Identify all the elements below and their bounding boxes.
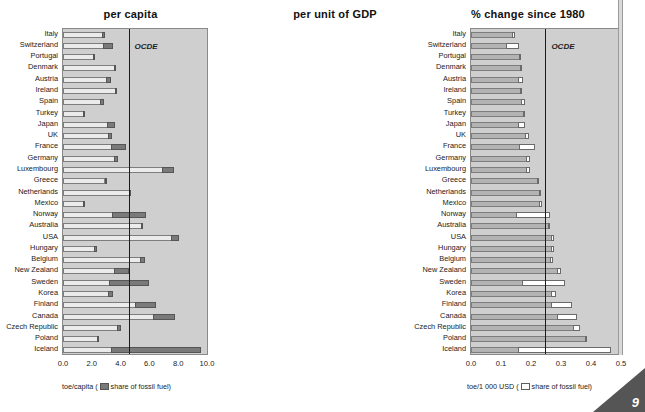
- ocde-label-1: OCDE: [135, 42, 158, 51]
- bar-fossil-share: [106, 77, 110, 83]
- country-label: Portugal: [30, 52, 58, 60]
- country-labels-per-capita: ItalySwitzerlandPortugalDenmarkAustriaIr…: [0, 28, 58, 355]
- country-label: Czech Republic: [6, 323, 58, 331]
- bar-fossil-share: [111, 347, 201, 353]
- bar-total: [63, 111, 85, 117]
- bar-fossil-share: [83, 201, 85, 207]
- country-label: Germany: [28, 154, 58, 162]
- bar-total: [63, 54, 95, 60]
- country-label: Switzerland: [20, 41, 58, 49]
- country-label: USA: [43, 233, 58, 241]
- bar-total: [63, 291, 113, 297]
- bar-total: [63, 77, 111, 83]
- caption-1-prefix: toe/capita (: [62, 382, 98, 391]
- bar-fossil-share: [171, 235, 179, 241]
- country-label: Spain: [39, 97, 58, 105]
- country-label: Sweden: [31, 278, 58, 286]
- bar-total: [63, 32, 105, 38]
- country-label: New Zealand: [14, 266, 58, 274]
- bar-fossil-share: [102, 32, 106, 38]
- bar-total: [63, 201, 85, 207]
- bar-total: [63, 167, 174, 173]
- country-label: Korea: [38, 289, 58, 297]
- bar-fossil-share: [114, 65, 116, 71]
- bar-total: [63, 133, 112, 139]
- x-axis-per-capita: 0.02.04.06.08.010.0: [62, 357, 208, 371]
- bar-fossil-share: [97, 336, 99, 342]
- axis-tick-label: 0.5: [616, 359, 627, 368]
- panel-1-title: per capita: [0, 8, 215, 20]
- country-label: Italy: [44, 30, 58, 38]
- bar-fossil-share: [162, 167, 174, 173]
- country-label: Japan: [38, 120, 58, 128]
- bar-fossil-share: [105, 178, 107, 184]
- page-number: 9: [632, 395, 639, 410]
- bar-total: [63, 65, 115, 71]
- bar-fossil-share: [117, 325, 121, 331]
- bar-fossil-share: [108, 133, 112, 139]
- caption-per-capita: toe/capita (share of fossil fuel): [62, 382, 171, 391]
- bar-fossil-share: [100, 99, 104, 105]
- axis-tick-label: 10.0: [200, 359, 215, 368]
- bar-fossil-share: [114, 156, 118, 162]
- country-label: Australia: [29, 221, 58, 229]
- country-label: France: [35, 142, 58, 150]
- bar-total: [63, 88, 116, 94]
- country-label: Turkey: [36, 109, 58, 117]
- country-label: Canada: [32, 312, 58, 320]
- bar-fossil-share: [111, 144, 126, 150]
- bars-per-capita: [63, 29, 207, 354]
- country-label: Luxembourg: [17, 165, 58, 173]
- country-label: Belgium: [31, 255, 58, 263]
- bar-total: [63, 325, 121, 331]
- bar-total: [63, 246, 97, 252]
- dark-square-icon: [100, 383, 109, 390]
- bar-fossil-share: [108, 291, 114, 297]
- bar-total: [63, 336, 98, 342]
- country-label: Denmark: [28, 63, 58, 71]
- country-label: Iceland: [34, 345, 58, 353]
- bar-fossil-share: [153, 314, 175, 320]
- caption-1-suffix: share of fossil fuel): [111, 382, 171, 391]
- bar-fossil-share: [94, 246, 97, 252]
- country-label: Norway: [33, 210, 58, 218]
- bar-total: [63, 178, 105, 184]
- bar-fossil-share: [140, 257, 145, 263]
- bar-total: [63, 99, 104, 105]
- country-label: Hungary: [30, 244, 58, 252]
- country-label: Mexico: [35, 199, 58, 207]
- panel-per-capita: per capita ItalySwitzerlandPortugalDenma…: [0, 0, 215, 412]
- bar-total: [63, 190, 131, 196]
- panel-per-unit-of-gdp: per unit of GDP ItalySwitzerlandPortugal…: [215, 0, 415, 412]
- bar-fossil-share: [135, 302, 156, 308]
- panel-percent-change: % change since 1980 109n.a.n.a.225n.a. I…: [415, 0, 615, 412]
- bar-fossil-share: [93, 54, 95, 60]
- bar-fossil-share: [141, 223, 143, 229]
- bar-total: [63, 257, 145, 263]
- bar-fossil-share: [103, 43, 113, 49]
- country-label: Greece: [34, 176, 58, 184]
- axis-tick-label: 2.0: [87, 359, 98, 368]
- panel-3-title: % change since 1980: [415, 8, 615, 20]
- country-label: Ireland: [35, 86, 58, 94]
- axis-tick-label: 6.0: [144, 359, 155, 368]
- page-margin-rule: [618, 0, 623, 355]
- bar-fossil-share: [114, 268, 128, 274]
- figure-page: per capita ItalySwitzerlandPortugalDenma…: [0, 0, 645, 412]
- country-label: Austria: [35, 75, 58, 83]
- bar-total: [63, 223, 143, 229]
- axis-tick-label: 8.0: [173, 359, 184, 368]
- ocde-reference-line: [129, 29, 130, 354]
- bar-total: [63, 156, 118, 162]
- axis-tick-label: 0.0: [58, 359, 69, 368]
- axis-tick-label: 4.0: [115, 359, 126, 368]
- country-label: Netherlands: [18, 188, 58, 196]
- bar-fossil-share: [115, 88, 117, 94]
- country-label: Poland: [35, 334, 58, 342]
- country-label: UK: [48, 131, 58, 139]
- panel-2-title: per unit of GDP: [215, 8, 415, 20]
- country-label: Finland: [34, 300, 58, 308]
- bar-fossil-share: [83, 111, 85, 117]
- bar-fossil-share: [107, 122, 115, 128]
- bar-total: [63, 235, 179, 241]
